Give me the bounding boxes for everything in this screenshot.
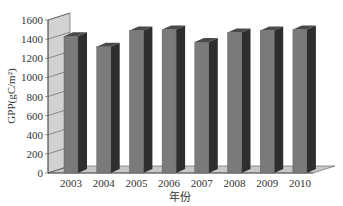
bar-2010: [293, 26, 316, 173]
y-tick-label: 1600: [21, 14, 44, 26]
y-tick-label: 1200: [21, 52, 44, 64]
x-tick-label: 2010: [289, 177, 312, 189]
x-axis-title: 年份: [169, 190, 191, 203]
bar-side: [209, 38, 218, 173]
bar-front: [228, 32, 242, 173]
x-tick-label: 2005: [125, 177, 148, 189]
x-tick-label: 2004: [93, 177, 116, 189]
bar-front: [260, 31, 274, 173]
bar-front: [162, 30, 176, 173]
bar-side: [176, 26, 185, 173]
bar-2006: [162, 26, 185, 173]
bar-side: [307, 26, 316, 173]
bar-2009: [260, 27, 283, 173]
x-tick-label: 2009: [256, 177, 279, 189]
bar-front: [129, 31, 143, 173]
bar-2003: [64, 32, 87, 173]
bar-side: [111, 43, 120, 173]
bar-front: [97, 47, 111, 173]
x-tick-label: 2008: [224, 177, 247, 189]
bar-2008: [228, 28, 251, 173]
y-tick-label: 0: [38, 167, 44, 179]
y-tick-label: 400: [27, 129, 44, 141]
bar-front: [195, 42, 209, 173]
bar-2007: [195, 38, 218, 173]
floor: [48, 166, 335, 173]
y-tick-label: 1000: [21, 71, 44, 83]
bar-side: [78, 32, 87, 173]
bar-side: [242, 28, 251, 173]
x-tick-label: 2003: [60, 177, 83, 189]
y-axis-title: GPP(gC/m²): [5, 68, 18, 124]
x-tick-label: 2007: [191, 177, 214, 189]
bar-2004: [97, 43, 120, 173]
bar-chart: 0200400600800100012001400160020032004200…: [0, 0, 343, 206]
y-tick-label: 600: [27, 110, 44, 122]
bar-front: [293, 30, 307, 173]
bar-side: [143, 27, 152, 173]
y-tick-label: 800: [27, 91, 44, 103]
x-tick-label: 2006: [158, 177, 181, 189]
bar-side: [274, 27, 283, 173]
y-tick-label: 200: [27, 148, 44, 160]
bar-2005: [129, 27, 152, 173]
bar-front: [64, 36, 78, 173]
y-tick-label: 1400: [21, 33, 44, 45]
